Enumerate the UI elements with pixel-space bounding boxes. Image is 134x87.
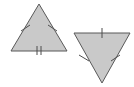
geometry-figure-svg (0, 0, 134, 87)
geometry-figure-canvas (0, 0, 134, 87)
